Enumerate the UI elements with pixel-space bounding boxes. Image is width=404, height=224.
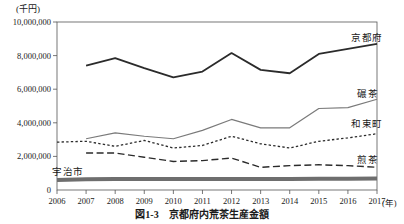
series-line-0 (86, 44, 377, 78)
y-tick-label-2: 4,000,000 (0, 118, 51, 128)
series-line-2 (57, 134, 377, 148)
y-axis-unit-label: (千円) (16, 2, 40, 15)
series-label-4: 宇治市 (52, 164, 84, 178)
series-label-3: 煎茶 (357, 152, 378, 166)
y-tick-label-5: 10,000,000 (0, 17, 51, 27)
series-label-1: 碾茶 (357, 86, 378, 100)
y-tick-label-3: 6,000,000 (0, 84, 51, 94)
x-tick-label-3: 2009 (136, 196, 153, 206)
x-tick-label-9: 2015 (310, 196, 327, 206)
x-tick-label-4: 2010 (165, 196, 182, 206)
line-chart (0, 0, 404, 224)
x-tick-label-5: 2011 (194, 196, 211, 206)
y-tick-label-0: 0 (0, 185, 51, 195)
x-tick-label-1: 2007 (78, 196, 95, 206)
figure-caption-number: 図1-3 (135, 209, 158, 220)
series-line-3 (86, 153, 377, 167)
x-tick-label-7: 2013 (252, 196, 269, 206)
x-tick-label-10: 2016 (339, 196, 356, 206)
y-tick-label-4: 8,000,000 (0, 51, 51, 61)
series-label-0: 京都府 (351, 30, 383, 44)
x-tick-label-0: 2006 (49, 196, 66, 206)
y-tick-label-1: 2,000,000 (0, 151, 51, 161)
series-line-4 (57, 179, 377, 180)
figure-caption-title: 京都府内荒茶生産金額 (169, 209, 269, 220)
x-tick-label-6: 2012 (223, 196, 240, 206)
x-tick-label-2: 2008 (107, 196, 124, 206)
figure-container: (千円) 02,000,0004,000,0006,000,0008,000,0… (0, 0, 404, 224)
x-tick-label-8: 2014 (281, 196, 298, 206)
series-label-2: 和束町 (351, 116, 383, 130)
series-line-1 (86, 99, 377, 138)
series-lines (57, 44, 377, 180)
figure-caption: 図1-3京都府内荒茶生産金額 (0, 206, 404, 221)
